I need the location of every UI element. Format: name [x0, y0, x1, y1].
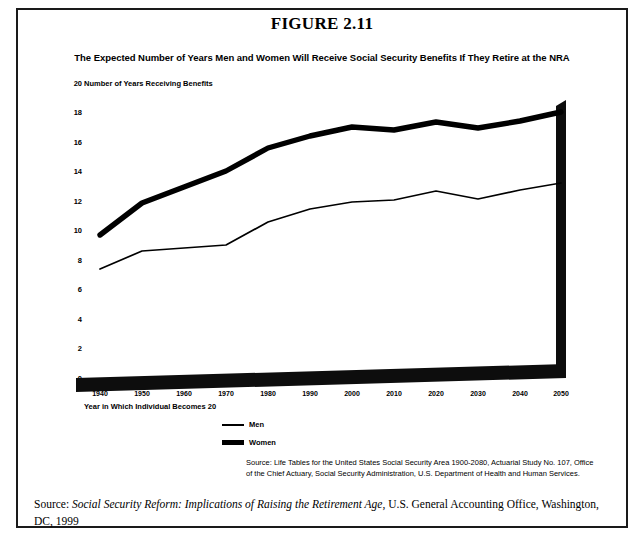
- x-tick-1940: 1940: [80, 390, 120, 397]
- x-tick-1970: 1970: [206, 390, 246, 397]
- x-tick-2020: 2020: [416, 390, 456, 397]
- x-tick-1950: 1950: [122, 390, 162, 397]
- bottom-source-title: Social Security Reform: Implications of …: [72, 498, 382, 510]
- x-tick-2030: 2030: [458, 390, 498, 397]
- bottom-source-prefix: Source:: [34, 498, 72, 510]
- series-line-women: [100, 112, 561, 235]
- legend-item-men: Men: [222, 418, 276, 431]
- chart-right-wall: [556, 100, 566, 378]
- x-tick-1960: 1960: [164, 390, 204, 397]
- chart-legend: Men Women: [222, 418, 276, 454]
- x-tick-2040: 2040: [500, 390, 540, 397]
- chart-source-note: Source: Life Tables for the United State…: [246, 458, 596, 479]
- series-line-men: [100, 183, 561, 269]
- x-tick-1980: 1980: [248, 390, 288, 397]
- figure-page: FIGURE 2.11 The Expected Number of Years…: [0, 0, 644, 545]
- legend-label-women: Women: [249, 438, 276, 447]
- x-tick-2010: 2010: [374, 390, 414, 397]
- x-axis-baseline-slab: [76, 364, 566, 392]
- legend-swatch-women-icon: [222, 440, 244, 445]
- x-axis-title: Year in Which Individual Becomes 20: [84, 402, 216, 411]
- x-tick-1990: 1990: [290, 390, 330, 397]
- legend-label-men: Men: [249, 420, 264, 429]
- legend-item-women: Women: [222, 436, 276, 449]
- bottom-source-line: Source: Social Security Reform: Implicat…: [34, 496, 614, 529]
- x-tick-2000: 2000: [332, 390, 372, 397]
- legend-swatch-men-icon: [222, 424, 244, 426]
- x-tick-2050: 2050: [541, 390, 581, 397]
